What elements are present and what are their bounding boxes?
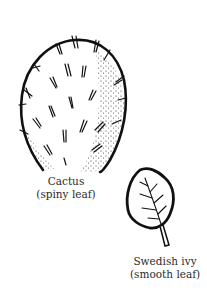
ivy-caption: Swedish ivy (smooth leaf) xyxy=(130,255,200,281)
cactus-pad-icon xyxy=(0,0,207,296)
ivy-name: Swedish ivy xyxy=(130,255,200,268)
cactus-caption: Cactus (spiny leaf) xyxy=(36,175,96,201)
ivy-leaf-icon xyxy=(127,169,173,246)
cactus-description: (spiny leaf) xyxy=(36,188,96,201)
leaf-comparison-diagram: Cactus (spiny leaf) Swedish ivy (smooth … xyxy=(0,0,207,296)
cactus-name: Cactus xyxy=(36,175,96,188)
ivy-description: (smooth leaf) xyxy=(130,268,200,281)
